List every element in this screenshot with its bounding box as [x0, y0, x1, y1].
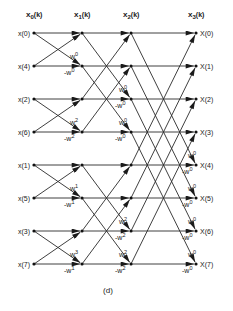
output-labels: X(0)X(1)X(2)X(3)X(4)X(5)X(6)X(7) [200, 30, 213, 269]
signal-edge [131, 99, 195, 229]
node-dot [129, 130, 132, 133]
signal-edge [131, 134, 195, 264]
column-header: x0(k) [26, 10, 42, 20]
node-dot [32, 262, 35, 265]
twiddle-factor: -w0 [182, 199, 192, 208]
node-dot [32, 97, 35, 100]
node-dot [129, 196, 132, 199]
twiddle-factor: w1 [69, 183, 78, 192]
node-dot [80, 64, 83, 67]
node-dot [194, 97, 197, 100]
twiddle-factor: w0 [69, 51, 78, 60]
output-label: X(1) [200, 63, 213, 71]
input-label: x(4) [18, 63, 30, 71]
node-dot [129, 163, 132, 166]
output-label: X(3) [200, 129, 213, 137]
column-header: x2(k) [123, 10, 139, 20]
output-label: X(5) [200, 195, 213, 203]
output-label: X(7) [200, 261, 213, 269]
output-label: X(6) [200, 228, 213, 236]
twiddle-factor: w3 [69, 249, 78, 258]
node-dot [194, 31, 197, 34]
node-dot [80, 196, 83, 199]
figure-label: (d) [103, 286, 113, 295]
node-dot [32, 163, 35, 166]
twiddle-factor: w0 [187, 150, 196, 159]
twiddle-factor: -w2 [115, 232, 125, 241]
twiddle-factor: w0 [187, 249, 196, 258]
node-dot [129, 97, 132, 100]
twiddle-factor: -w0 [182, 265, 192, 274]
node-dot [80, 31, 83, 34]
signal-edge [131, 68, 195, 198]
input-label: x(6) [18, 129, 30, 137]
input-label: x(7) [18, 261, 30, 269]
signal-edge [34, 99, 80, 131]
twiddle-factor: -w2 [115, 265, 125, 274]
twiddle-factor: -w0 [115, 133, 125, 142]
signal-edge [34, 165, 80, 197]
nodes [32, 31, 197, 265]
column-header: x3(k) [188, 10, 204, 20]
node-dot [129, 229, 132, 232]
twiddle-factor: -w0 [115, 100, 125, 109]
signal-edge [131, 132, 195, 262]
node-dot [194, 130, 197, 133]
node-dot [194, 229, 197, 232]
node-dot [32, 31, 35, 34]
node-dot [194, 262, 197, 265]
twiddle-factor: -w1 [64, 199, 74, 208]
signal-edge [131, 33, 195, 163]
node-dot [194, 196, 197, 199]
twiddle-factor: -w2 [64, 133, 74, 142]
signal-edge [34, 166, 80, 198]
twiddle-factor: -w0 [182, 232, 192, 241]
signal-edge [131, 66, 195, 196]
signal-edge [34, 33, 80, 65]
node-dot [80, 97, 83, 100]
signal-edge [131, 35, 195, 165]
node-dot [80, 262, 83, 265]
twiddle-factor: w0 [187, 183, 196, 192]
node-dot [80, 229, 83, 232]
signal-edge [131, 101, 195, 231]
node-dot [129, 31, 132, 34]
node-dot [32, 64, 35, 67]
node-dot [32, 196, 35, 199]
twiddle-factor: -w1 [64, 265, 74, 274]
signal-edge [34, 231, 80, 263]
signal-edge [34, 232, 80, 264]
output-label: X(4) [200, 162, 213, 170]
signal-edge [34, 100, 80, 132]
node-dot [80, 163, 83, 166]
node-dot [129, 262, 132, 265]
signal-edge [34, 34, 80, 66]
twiddle-labels: w0-w0w2-w2w1-w1w3-w1w0-w0w0-w0w2-w2w2-w2… [64, 51, 196, 274]
output-label: X(2) [200, 96, 213, 104]
butterfly-edges [34, 33, 195, 264]
column-header: x1(k) [74, 10, 90, 20]
input-label: x(5) [18, 195, 30, 203]
input-label: x(1) [18, 162, 30, 170]
input-label: x(2) [18, 96, 30, 104]
output-label: X(0) [200, 30, 213, 38]
fft-butterfly-diagram: x0(k)x1(k)x2(k)x3(k) x(0)x(4)x(2)x(6)x(1… [0, 0, 233, 311]
node-dot [32, 229, 35, 232]
node-dot [32, 130, 35, 133]
node-dot [129, 64, 132, 67]
node-dot [194, 64, 197, 67]
input-label: x(3) [18, 228, 30, 236]
node-dot [194, 163, 197, 166]
input-labels: x(0)x(4)x(2)x(6)x(1)x(5)x(3)x(7) [18, 30, 30, 269]
input-label: x(0) [18, 30, 30, 38]
twiddle-factor: -w0 [182, 166, 192, 175]
twiddle-factor: w0 [187, 216, 196, 225]
twiddle-factor: -w0 [64, 67, 74, 76]
node-dot [80, 130, 83, 133]
column-headers: x0(k)x1(k)x2(k)x3(k) [26, 10, 204, 20]
twiddle-factor: w2 [69, 117, 78, 126]
